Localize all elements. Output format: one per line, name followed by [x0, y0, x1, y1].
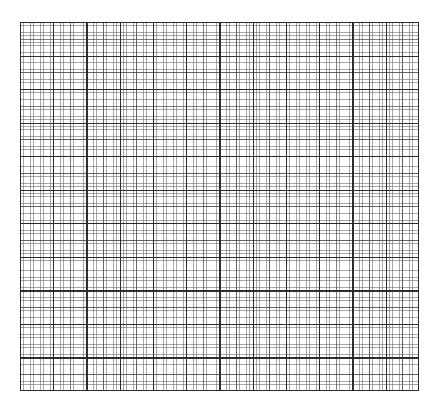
major-grid-layer	[20, 22, 419, 391]
graph-paper-sheet	[20, 22, 419, 391]
page-root	[0, 0, 439, 410]
